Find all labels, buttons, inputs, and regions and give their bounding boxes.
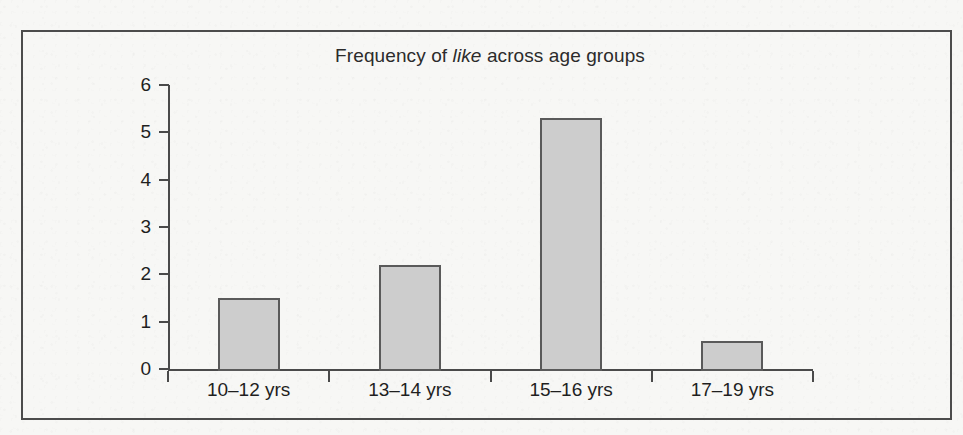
y-axis-tick-label: 0 — [117, 359, 151, 378]
chart-title-italic-word: like — [453, 45, 482, 66]
bar — [701, 341, 763, 371]
y-axis-tick — [159, 321, 169, 323]
x-axis-tick-label: 10–12 yrs — [168, 379, 329, 401]
figure-root: Frequency of like across age groups 0123… — [0, 0, 963, 435]
bar — [540, 118, 602, 371]
bar-chart-plot-area: Frequency of like across age groups 0123… — [0, 0, 963, 435]
y-axis-tick-label: 4 — [117, 170, 151, 189]
y-axis-line — [168, 85, 170, 371]
x-axis-tick-label: 15–16 yrs — [491, 379, 652, 401]
y-axis-tick — [159, 131, 169, 133]
chart-title-before: Frequency of — [335, 45, 452, 66]
y-axis-tick — [159, 226, 169, 228]
y-axis-tick — [159, 368, 169, 370]
y-axis-tick-label: 6 — [117, 75, 151, 94]
chart-title-after: across age groups — [482, 45, 645, 66]
y-axis-tick — [159, 84, 169, 86]
y-axis-tick-label: 2 — [117, 264, 151, 283]
y-axis-tick — [159, 273, 169, 275]
y-axis-tick-label: 3 — [117, 217, 151, 236]
y-axis-tick-label: 5 — [117, 122, 151, 141]
bar — [379, 265, 441, 371]
y-axis-tick-label: 1 — [117, 312, 151, 331]
chart-title: Frequency of like across age groups — [160, 45, 820, 67]
bar — [218, 298, 280, 371]
x-axis-tick-label: 17–19 yrs — [652, 379, 813, 401]
x-axis-tick-label: 13–14 yrs — [329, 379, 490, 401]
y-axis-tick — [159, 179, 169, 181]
